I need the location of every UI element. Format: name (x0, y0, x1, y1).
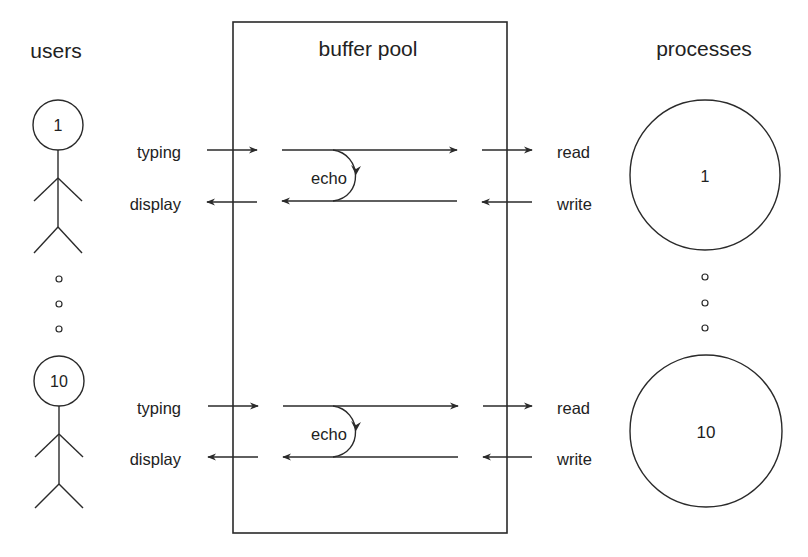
typing-label: typing (137, 143, 181, 161)
ellipsis-dot (702, 325, 708, 331)
processes-ellipsis (702, 274, 708, 331)
user-10-left-arm (35, 434, 59, 457)
write-label: write (556, 195, 592, 213)
echo-label: echo (311, 169, 347, 187)
ellipsis-dot (56, 326, 62, 332)
user-1-left-arm (34, 178, 58, 201)
terminal-buffer-pool-diagram: users buffer pool processes 1 10 typing … (0, 0, 808, 557)
user-10-right-arm (59, 434, 83, 457)
user-10-figure: 10 (34, 356, 84, 508)
user-1-right-leg (58, 227, 82, 253)
process-10-label: 10 (697, 423, 716, 442)
ellipsis-dot (56, 276, 62, 282)
ellipsis-dot (56, 301, 62, 307)
user-10-left-leg (35, 484, 59, 508)
process-1-label: 1 (701, 168, 710, 185)
user-1-figure: 1 (33, 100, 83, 253)
process-1: 1 (630, 100, 780, 250)
write-label: write (556, 450, 592, 468)
user-1-left-leg (34, 227, 58, 253)
processes-header: processes (656, 37, 752, 60)
read-label: read (557, 399, 590, 417)
echo-arrowhead-icon (351, 421, 361, 431)
process-10: 10 (630, 355, 782, 507)
buffer-pool-header: buffer pool (319, 37, 418, 60)
echo-arrowhead-icon (351, 165, 361, 175)
read-label: read (557, 143, 590, 161)
typing-label: typing (137, 399, 181, 417)
users-header: users (30, 39, 81, 62)
user-10-right-leg (59, 484, 83, 508)
echo-label: echo (311, 425, 347, 443)
flow-row-user-10: typing display echo read write (130, 399, 592, 468)
ellipsis-dot (702, 274, 708, 280)
ellipsis-dot (702, 300, 708, 306)
users-ellipsis (56, 276, 62, 332)
flow-row-user-1: typing display echo read write (130, 143, 592, 213)
user-1-right-arm (58, 178, 82, 201)
display-label: display (130, 450, 182, 468)
user-10-label: 10 (50, 373, 68, 390)
user-1-label: 1 (54, 117, 63, 134)
display-label: display (130, 195, 182, 213)
